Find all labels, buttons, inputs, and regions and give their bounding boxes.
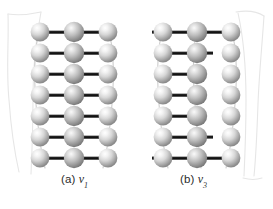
atom-sphere [31,23,50,42]
atom-sphere [222,128,241,147]
atom-sphere [154,86,173,105]
atom-sphere [99,107,118,126]
figure-container: (a) v1 (b) v3 [0,0,273,209]
atom-sphere [99,149,118,168]
atom-sphere [31,86,50,105]
panel-a-row-2 [31,43,118,63]
panel-a-row-7 [31,148,118,168]
atom-sphere [31,65,50,84]
atom-sphere [187,64,207,84]
atom-sphere [154,44,173,63]
atom-sphere [222,23,241,42]
atom-sphere [64,85,84,105]
atom-sphere [31,107,50,126]
panel-a-row-1 [31,22,118,42]
atom-sphere [64,64,84,84]
atom-sphere [64,127,84,147]
panel-b-row-7 [152,148,240,168]
atom-sphere [31,149,50,168]
atom-sphere [99,128,118,147]
atom-sphere [187,22,207,42]
atom-sphere [31,128,50,147]
atom-sphere [154,65,173,84]
panel-b-row-2 [154,43,241,63]
panel-a-row-5 [31,106,118,126]
panel-a-row-6 [31,127,118,147]
panel-b-row-3 [154,64,241,84]
atom-sphere [99,23,118,42]
panel-b-row-6 [154,127,241,147]
atom-sphere [222,107,241,126]
atom-sphere [187,85,207,105]
panel-b-row-1 [152,22,240,42]
atom-sphere [154,149,173,168]
atom-sphere [222,44,241,63]
atom-sphere [154,23,173,42]
atom-sphere [64,22,84,42]
atom-sphere [154,128,173,147]
atom-sphere [187,148,207,168]
molecular-structure-figure [0,0,273,209]
panel-b-row-4 [154,85,241,105]
atom-sphere [99,44,118,63]
atom-sphere [99,86,118,105]
panel-a-row-4 [31,85,118,105]
panel-a-row-3 [31,64,118,84]
atom-sphere [187,43,207,63]
atom-sphere [31,44,50,63]
panel-b-row-5 [154,106,241,126]
atom-sphere [187,127,207,147]
atom-sphere [64,106,84,126]
atom-sphere [222,65,241,84]
atom-sphere [64,148,84,168]
atom-sphere [99,65,118,84]
atom-sphere [222,149,241,168]
atom-sphere [154,107,173,126]
atom-sphere [64,43,84,63]
atom-sphere [222,86,241,105]
atom-sphere [187,106,207,126]
